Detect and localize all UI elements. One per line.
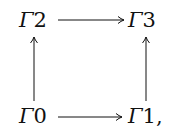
arrows-layer <box>0 0 174 135</box>
arrow-gamma2-to-gamma3 <box>58 17 124 24</box>
arrow-gamma0-to-gamma1 <box>58 114 122 121</box>
arrow-gamma1-to-gamma3 <box>143 37 150 101</box>
arrow-gamma0-to-gamma2 <box>31 37 38 101</box>
